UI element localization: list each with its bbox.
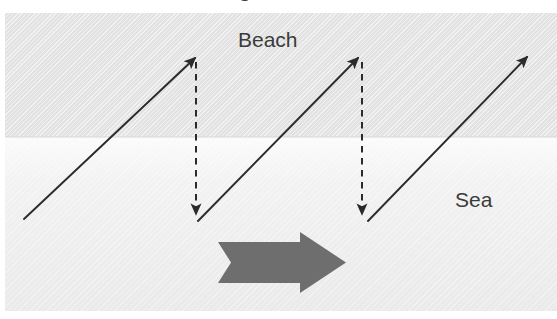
net-drift-arrow xyxy=(218,232,346,293)
swash-arrow-3 xyxy=(368,57,527,221)
longshore-drift-diagram: Longshore drift Beach Sea xyxy=(0,0,557,319)
swash-arrow-1 xyxy=(24,58,195,219)
beach-label: Beach xyxy=(238,28,298,52)
swash-arrow-2 xyxy=(198,58,358,221)
sea-label: Sea xyxy=(455,188,492,212)
